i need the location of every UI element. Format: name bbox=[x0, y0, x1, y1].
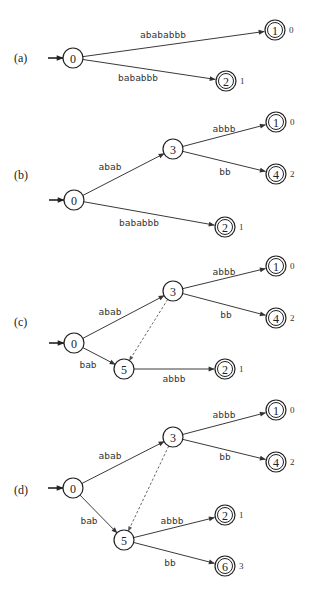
edge-label: abbb bbox=[213, 123, 236, 134]
edge-label: bababbb bbox=[119, 217, 159, 228]
state-id: 2 bbox=[222, 221, 228, 235]
edge-label: bb bbox=[219, 166, 231, 177]
panel-label: (c) bbox=[14, 315, 27, 329]
panel-c: (c)abababbbbbbababbb031042521 bbox=[14, 256, 295, 384]
edge-label: bb bbox=[164, 557, 176, 568]
state-node: 3 bbox=[163, 139, 183, 159]
state-node: 5 bbox=[114, 359, 134, 379]
state-output: 2 bbox=[290, 313, 295, 323]
final-state-node: 42 bbox=[266, 308, 295, 328]
state-output: 0 bbox=[290, 405, 295, 415]
state-id: 2 bbox=[222, 509, 228, 523]
state-id: 1 bbox=[273, 404, 279, 418]
state-node: 0 bbox=[64, 333, 84, 353]
edge-label: abbb bbox=[213, 266, 236, 277]
state-id: 2 bbox=[223, 75, 229, 89]
edge-label: abab bbox=[99, 306, 122, 317]
panel-a: (a)abababbbbababbb01021 bbox=[14, 20, 294, 91]
final-state-node: 10 bbox=[266, 256, 295, 276]
state-id: 4 bbox=[273, 456, 279, 470]
state-id: 5 bbox=[121, 534, 127, 548]
state-node: 3 bbox=[163, 281, 183, 301]
state-output: 2 bbox=[290, 457, 295, 467]
state-output: 0 bbox=[289, 25, 294, 35]
state-id: 1 bbox=[272, 24, 278, 38]
state-id: 0 bbox=[71, 337, 77, 351]
final-state-node: 42 bbox=[266, 452, 295, 472]
state-id: 4 bbox=[273, 312, 279, 326]
edge-label: abbb bbox=[163, 373, 186, 384]
panel-d: (d)abababbbbbbababbbbb03104252163 bbox=[14, 400, 295, 576]
state-output: 2 bbox=[290, 169, 295, 179]
edge-label: abababbb bbox=[140, 29, 186, 40]
transition-edge bbox=[83, 154, 164, 196]
state-id: 4 bbox=[273, 168, 279, 182]
state-output: 1 bbox=[240, 76, 245, 86]
panels: (a)abababbbbababbb01021(b)abababbbbbbaba… bbox=[14, 20, 295, 576]
state-output: 0 bbox=[290, 261, 295, 271]
transition-edge bbox=[83, 296, 164, 339]
final-state-node: 10 bbox=[266, 400, 295, 420]
state-id: 1 bbox=[273, 116, 279, 130]
final-state-node: 21 bbox=[215, 359, 244, 379]
edge-label: bab bbox=[80, 515, 97, 526]
state-output: 1 bbox=[239, 510, 244, 520]
state-id: 2 bbox=[222, 363, 228, 377]
state-id: 3 bbox=[170, 285, 176, 299]
panel-label: (a) bbox=[14, 51, 27, 65]
edge-label: abab bbox=[99, 450, 122, 461]
automaton-figure: (a)abababbbbababbb01021(b)abababbbbbbaba… bbox=[0, 0, 312, 592]
final-state-node: 42 bbox=[266, 164, 295, 184]
final-state-node: 10 bbox=[266, 112, 295, 132]
final-state-node: 21 bbox=[215, 505, 244, 525]
final-state-node: 10 bbox=[265, 20, 294, 40]
edge-label: bb bbox=[220, 309, 232, 320]
state-node: 3 bbox=[163, 427, 183, 447]
panel-label: (d) bbox=[14, 483, 28, 497]
state-node: 5 bbox=[114, 530, 134, 550]
transition-edge bbox=[80, 495, 117, 533]
state-id: 5 bbox=[121, 363, 127, 377]
state-output: 3 bbox=[239, 561, 244, 571]
edge-label: bababbb bbox=[118, 72, 158, 83]
panel-b: (b)abababbbbbbababbb03104221 bbox=[14, 112, 295, 237]
state-node: 0 bbox=[63, 48, 83, 68]
state-output: 1 bbox=[239, 364, 244, 374]
edge-label: abab bbox=[99, 161, 122, 172]
state-id: 3 bbox=[170, 431, 176, 445]
edge-label: bab bbox=[79, 359, 96, 370]
state-id: 6 bbox=[222, 560, 228, 574]
edge-label: abbb bbox=[213, 409, 236, 420]
transition-edge bbox=[82, 442, 164, 484]
state-id: 3 bbox=[170, 143, 176, 157]
final-state-node: 63 bbox=[215, 556, 244, 576]
state-id: 0 bbox=[70, 52, 76, 66]
state-id: 0 bbox=[71, 194, 77, 208]
state-output: 1 bbox=[239, 222, 244, 232]
panel-label: (b) bbox=[14, 168, 28, 182]
edge-label: bb bbox=[219, 451, 231, 462]
state-id: 1 bbox=[273, 260, 279, 274]
final-state-node: 21 bbox=[216, 71, 245, 91]
state-output: 0 bbox=[290, 117, 295, 127]
state-id: 0 bbox=[70, 482, 76, 496]
state-node: 0 bbox=[63, 478, 83, 498]
failure-link-edge bbox=[129, 299, 167, 360]
edge-label: abbb bbox=[161, 515, 184, 526]
state-node: 0 bbox=[64, 190, 84, 210]
final-state-node: 21 bbox=[215, 217, 244, 237]
